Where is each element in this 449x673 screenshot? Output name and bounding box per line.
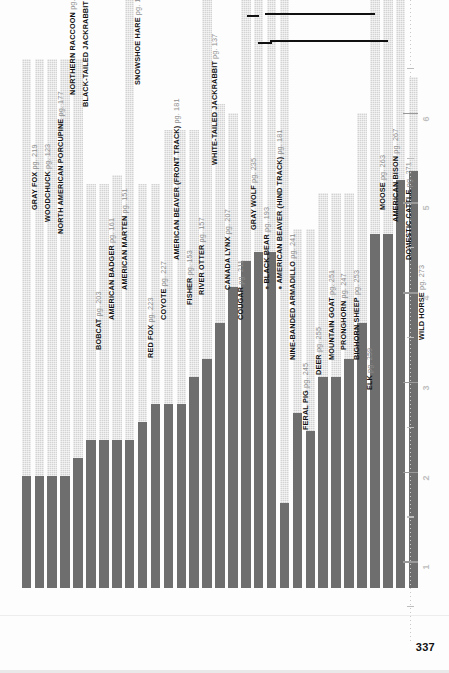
bar <box>267 0 277 588</box>
ruler-tick-label: 3 <box>421 385 431 390</box>
page-reference[interactable]: pg. 223 <box>146 297 155 324</box>
bar-fill <box>267 252 277 588</box>
bar-label: AMERICAN BISON pg. 267 <box>392 129 399 222</box>
bar-label: FISHER pg. 153 <box>186 250 193 305</box>
bar-fill <box>344 359 354 588</box>
bar-label: BIGHORN SHEEP pg. 253 <box>353 270 360 360</box>
ruler-tick-label: 2 <box>421 475 431 480</box>
page-reference[interactable]: pg. 123 <box>43 144 52 171</box>
bar-label: ● BLACK BEAR pg. 193 <box>263 207 270 290</box>
page-reference[interactable]: pg. 219 <box>30 144 39 171</box>
bar <box>189 130 199 588</box>
species-name: BIGHORN SHEEP <box>352 297 361 360</box>
species-name: COYOTE <box>159 288 168 320</box>
bar-fill <box>254 252 264 588</box>
page-reference[interactable]: pg. 247 <box>339 273 348 300</box>
bar-label: COUGAR pg. 211 <box>237 260 244 320</box>
page-reference[interactable]: pg. 263 <box>378 155 387 182</box>
bar-fill <box>202 359 212 588</box>
footer-rule <box>0 615 449 616</box>
bar-label: NINE-BANDED ARMADILLO pg. 241 <box>289 234 296 360</box>
species-name: SNOWSHOE HARE <box>133 17 142 85</box>
page-reference[interactable]: pg. 227 <box>159 261 168 288</box>
ruler-tick-minor <box>407 427 414 428</box>
bar <box>151 184 161 588</box>
species-name: BLACK-TAILED JACKRABBIT <box>81 1 90 107</box>
bullet-icon: ● <box>263 284 270 290</box>
bar-fill <box>228 287 238 588</box>
ruler-tick-minor <box>407 606 414 607</box>
bar-fill <box>318 377 328 588</box>
page-reference[interactable]: pg. 241 <box>288 234 297 261</box>
bar <box>383 0 393 588</box>
species-name: BLACK BEAR <box>262 234 271 283</box>
page-reference[interactable]: pg. 251 <box>327 270 336 297</box>
page-reference[interactable]: pg. 157 <box>197 217 206 244</box>
page-reference[interactable]: pg. 193 <box>262 207 271 234</box>
ruler-tick-label: 1 <box>421 565 431 570</box>
species-name: NINE-BANDED ARMADILLO <box>288 261 297 360</box>
bar <box>125 0 135 588</box>
page-reference[interactable]: pg. 259 <box>365 348 374 375</box>
page-reference[interactable]: pg. 245 <box>301 363 310 390</box>
bar-label: BLACK-TAILED JACKRABBIT pg. 137 <box>82 0 89 107</box>
bar-label: DEER pg. 255 <box>315 327 322 375</box>
bar <box>73 59 83 588</box>
page-reference[interactable]: pg. 153 <box>185 250 194 277</box>
page-reference[interactable]: pg. 181 <box>172 98 181 125</box>
page-reference[interactable]: pg. 267 <box>391 129 400 156</box>
page-reference[interactable]: pg. 235 <box>249 158 258 185</box>
species-name: NORTHERN RACCOON <box>68 12 77 95</box>
species-name: WOODCHUCK <box>43 171 52 222</box>
bullet-icon: ● <box>276 284 283 290</box>
bar-label: CANADA LYNX pg. 207 <box>224 209 231 290</box>
bar <box>344 193 354 588</box>
species-name: AMERICAN BISON <box>391 156 400 222</box>
bar-fill <box>331 377 341 588</box>
species-name: WHITE-TAILED JACKRABBIT <box>210 61 219 165</box>
bar-fill <box>22 476 32 588</box>
chart-page: GRAY FOX pg. 219WOODCHUCK pg. 123NORTH A… <box>0 0 449 673</box>
ruler-dotted-line <box>410 0 411 643</box>
bar-label: MOUNTAIN GOAT pg. 251 <box>328 270 335 360</box>
page-reference[interactable]: pg. 177 <box>56 91 65 118</box>
ruler-tick-minor <box>407 158 414 159</box>
page-reference[interactable]: pg. 181 <box>275 129 284 156</box>
page-reference[interactable]: pg. 161 <box>107 218 116 245</box>
species-name: CANADA LYNX <box>223 237 232 291</box>
bar <box>138 184 148 588</box>
bar-fill <box>60 476 70 588</box>
bar-fill <box>177 404 187 588</box>
page-reference[interactable]: pg. 137 <box>210 34 219 61</box>
species-name: ELK <box>365 375 374 390</box>
bar-label: GRAY WOLF pg. 235 <box>250 158 257 230</box>
bar <box>254 0 264 588</box>
species-name: FERAL PIG <box>301 390 310 430</box>
page-reference[interactable]: pg. 151 <box>120 188 129 215</box>
page-reference[interactable]: pg. 255 <box>314 327 323 354</box>
page-reference[interactable]: pg. 211 <box>236 260 245 287</box>
page-reference[interactable]: pg. 203 <box>94 291 103 318</box>
species-name: MOOSE <box>378 182 387 210</box>
page-reference[interactable]: pg. 137 <box>81 0 90 1</box>
page-reference[interactable]: pg. 253 <box>352 270 361 297</box>
page-reference[interactable]: pg. 207 <box>223 209 232 236</box>
page-number: 337 <box>416 641 435 653</box>
bar <box>35 59 45 588</box>
species-name: PRONGHORN <box>339 301 348 350</box>
species-name: AMERICAN BADGER <box>107 245 116 320</box>
bar <box>318 193 328 588</box>
bar-label: PRONGHORN pg. 247 <box>340 273 347 350</box>
ruler-tick-minor <box>407 337 414 338</box>
bar-fill <box>189 377 199 588</box>
bar-fill <box>47 476 57 588</box>
bar-fill <box>370 234 380 588</box>
bar-fill <box>383 234 393 588</box>
page-reference[interactable]: pg. 189 <box>68 0 77 12</box>
ruler-tick-major <box>403 561 418 562</box>
species-name: COUGAR <box>236 287 245 320</box>
bar <box>370 0 380 588</box>
leader-line <box>258 42 272 44</box>
bar-label: FERAL PIG pg. 245 <box>302 363 309 430</box>
page-reference[interactable]: pg. 133 <box>133 0 142 17</box>
